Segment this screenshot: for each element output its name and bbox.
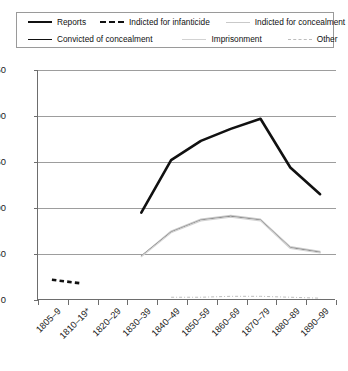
series-line — [141, 119, 320, 213]
series-line — [52, 280, 82, 284]
series-line — [171, 296, 320, 298]
chart-container: Reports Indicted for infanticide Indicte… — [0, 0, 348, 371]
series-line — [141, 217, 320, 257]
series-line — [141, 216, 320, 256]
